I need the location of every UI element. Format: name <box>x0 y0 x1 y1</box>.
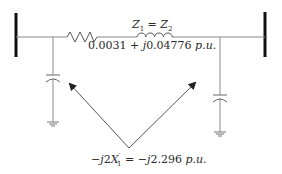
reactance-value: 2.296 <box>150 153 182 166</box>
inductor-icon <box>137 33 172 37</box>
pi-model-diagram: Z1 = Z2 0.0031 + j0.04776 p.u. −j2X′1 = … <box>0 0 282 174</box>
equals-sign: = <box>144 18 160 31</box>
impedance-imag-part: 0.04776 <box>146 39 192 52</box>
z1-symbol: Z <box>132 18 140 31</box>
minus-sign: − <box>91 153 100 166</box>
impedance-equality-label: Z1 = Z2 <box>132 19 172 33</box>
impedance-unit: p.u. <box>192 39 217 52</box>
series-impedance-value: 0.0031 + j0.04776 p.u. <box>88 40 216 51</box>
equals-sign: = − <box>122 153 147 166</box>
left-pointer-arrow <box>70 84 129 148</box>
prime-mark: ′ <box>118 152 120 160</box>
right-pointer-arrow <box>129 83 195 148</box>
z2-symbol: Z <box>160 18 168 31</box>
reactance-unit: p.u. <box>182 153 207 166</box>
left-shunt-capacitor <box>46 37 60 122</box>
impedance-real-part: 0.0031 + <box>88 39 143 52</box>
right-ground-icon <box>214 132 226 136</box>
coefficient: 2 <box>104 153 111 166</box>
shunt-reactance-value: −j2X′1 = −j2.296 p.u. <box>91 153 207 168</box>
z2-subscript: 2 <box>168 25 172 33</box>
left-ground-icon <box>47 122 59 126</box>
